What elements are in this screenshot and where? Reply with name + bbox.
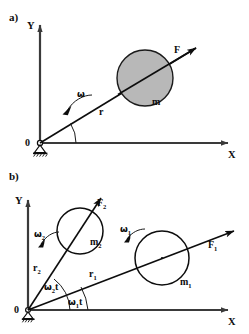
panel-a-x-axis-label: X <box>228 149 236 160</box>
panel-a-omega-label: ω <box>77 89 85 99</box>
figure-root: a) Y X 0 <box>0 0 249 334</box>
panel-a-label: a) <box>9 11 19 24</box>
panel-b: b) Y X 0 <box>9 170 236 327</box>
panel-a-mass-label: m <box>152 96 161 107</box>
panel-b-mass2-label: m2 <box>90 236 102 249</box>
panel-b-omega2-label: ω2 <box>34 229 45 241</box>
panel-b-mass1-center-dot <box>161 257 163 259</box>
panel-b-label: b) <box>9 170 19 183</box>
panel-b-radius2-label: r2 <box>33 262 41 275</box>
panel-b-angle1-label: ω1t <box>68 296 83 309</box>
panel-b-radius1-ray <box>28 231 234 310</box>
panel-b-y-axis-label: Y <box>15 195 23 206</box>
panel-b-force1-label: F1 <box>208 239 217 252</box>
panel-b-x-axis-label: X <box>228 316 236 327</box>
panel-b-origin-label: 0 <box>14 304 19 315</box>
panel-b-force2-label: F2 <box>97 197 106 210</box>
panel-b-omega1-label: ω1 <box>120 224 131 236</box>
panel-a-y-axis-label: Y <box>27 20 35 31</box>
panel-b-angle2-label: ω2t <box>44 281 59 294</box>
mechanics-figure: a) Y X 0 <box>0 0 249 334</box>
panel-b-mass1-label: m1 <box>180 276 192 289</box>
panel-a: a) Y X 0 <box>9 11 236 160</box>
panel-b-radius1-label: r1 <box>89 268 97 281</box>
panel-a-radius-label: r <box>99 106 104 117</box>
panel-a-force-label: F <box>174 44 180 55</box>
panel-a-origin-label: 0 <box>25 137 30 148</box>
panel-a-angle-arc <box>71 124 77 144</box>
